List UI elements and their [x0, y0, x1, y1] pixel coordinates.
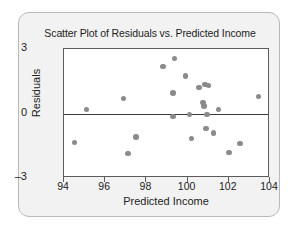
scatter-point — [204, 112, 209, 117]
scatter-point — [183, 73, 188, 78]
scatter-point — [187, 112, 192, 117]
x-tick-mark — [269, 177, 270, 182]
y-tick-label: 0 — [0, 106, 27, 118]
scatter-point — [160, 64, 165, 69]
scatter-point — [196, 85, 201, 90]
x-tick-mark — [104, 177, 105, 182]
x-axis-label: Predicted Income — [63, 195, 269, 207]
scatter-point — [216, 107, 221, 112]
scatter-point — [170, 114, 175, 119]
scatter-point — [206, 83, 211, 88]
scatter-point — [121, 96, 126, 101]
x-tick-mark — [63, 177, 64, 182]
scatter-point — [189, 136, 194, 141]
scatter-point — [203, 126, 208, 131]
scatter-point — [201, 103, 206, 108]
x-tick-mark — [187, 177, 188, 182]
y-axis-label: Residuals — [30, 48, 42, 138]
scatter-point — [84, 107, 89, 112]
scatter-point — [133, 134, 138, 139]
y-tick-label: 3 — [0, 41, 27, 53]
scatter-point — [226, 150, 231, 155]
scatter-point — [172, 56, 177, 61]
plot-area — [63, 48, 269, 177]
chart-title: Scatter Plot of Residuals vs. Predicted … — [19, 27, 281, 39]
scatter-point — [72, 140, 77, 145]
scatter-point — [211, 130, 216, 135]
scatter-point — [237, 141, 242, 146]
y-tick-label: –3 — [0, 170, 27, 182]
scatter-point — [170, 90, 175, 95]
scatter-point — [125, 151, 130, 156]
x-tick-mark — [145, 177, 146, 182]
x-tick-mark — [228, 177, 229, 182]
zero-reference-line — [64, 114, 268, 115]
scatter-point — [256, 94, 261, 99]
figure-card: Scatter Plot of Residuals vs. Predicted … — [18, 12, 280, 217]
